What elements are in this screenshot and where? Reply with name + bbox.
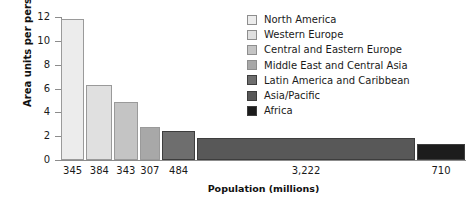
x-axis-title: Population (millions)	[61, 183, 466, 194]
legend-swatch-icon	[247, 75, 257, 85]
legend-item: Asia/Pacific	[247, 88, 410, 103]
legend-item-label: Africa	[264, 105, 293, 116]
legend-swatch-icon	[247, 91, 257, 101]
bar-western-europe	[86, 85, 112, 160]
legend-item: North America	[247, 12, 410, 27]
x-axis-tick-label: 710	[417, 165, 465, 176]
x-axis-tick-label: 484	[162, 165, 195, 176]
x-axis-tick-label: 3,222	[197, 165, 415, 176]
y-axis-tick-label: 8	[24, 60, 50, 70]
bar-central-and-eastern-europe	[114, 102, 137, 160]
y-axis-tick	[55, 160, 61, 161]
legend-swatch-icon	[247, 30, 257, 40]
bar-africa	[417, 144, 465, 160]
legend-item-label: Central and Eastern Europe	[264, 44, 402, 55]
x-axis-tick-label: 345	[61, 165, 84, 176]
legend-item: Africa	[247, 103, 410, 118]
legend-swatch-icon	[247, 15, 257, 25]
legend-item-label: Middle East and Central Asia	[264, 60, 408, 71]
y-axis-tick-label: 10	[24, 36, 50, 46]
x-axis-line	[61, 160, 466, 161]
y-axis-tick-label: 6	[24, 84, 50, 94]
y-axis-tick-label: 12	[24, 12, 50, 22]
bar-middle-east-and-central-asia	[140, 127, 161, 160]
legend-item: Latin America and Caribbean	[247, 73, 410, 88]
bar-north-america	[61, 19, 84, 160]
x-axis-tick-label: 343	[114, 165, 137, 176]
legend-item: Middle East and Central Asia	[247, 58, 410, 73]
legend-swatch-icon	[247, 60, 257, 70]
legend-swatch-icon	[247, 106, 257, 116]
chart-figure: Area units per person 024681012 34538434…	[0, 0, 475, 206]
bar-latin-america-and-caribbean	[162, 131, 195, 160]
y-axis-tick-label: 0	[24, 155, 50, 165]
legend-item: Western Europe	[247, 27, 410, 42]
legend-item: Central and Eastern Europe	[247, 42, 410, 57]
legend-swatch-icon	[247, 45, 257, 55]
bar-asia-pacific	[197, 138, 415, 160]
legend-item-label: Latin America and Caribbean	[264, 75, 410, 86]
legend: North AmericaWestern EuropeCentral and E…	[247, 12, 410, 118]
y-axis-tick-label: 2	[24, 131, 50, 141]
legend-item-label: North America	[264, 14, 336, 25]
y-axis-tick-label: 4	[24, 107, 50, 117]
x-axis-tick-label: 384	[86, 165, 112, 176]
legend-item-label: Western Europe	[264, 29, 343, 40]
legend-item-label: Asia/Pacific	[264, 90, 320, 101]
x-axis-tick-label: 307	[140, 165, 161, 176]
